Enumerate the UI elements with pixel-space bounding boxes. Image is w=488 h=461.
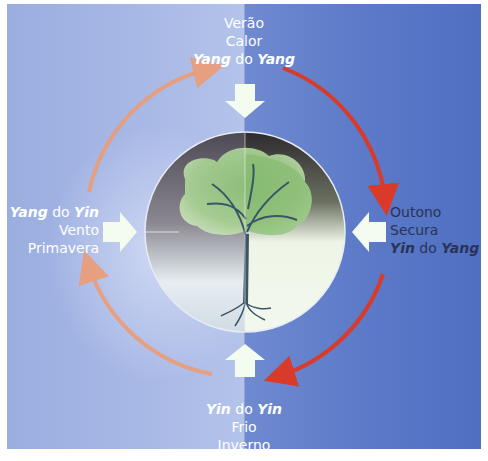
climate-name: Calor: [7, 32, 481, 50]
yin-yang-aspect: Yin do Yin: [7, 400, 481, 418]
season-name: Primavera: [9, 239, 99, 257]
block-arrow-right-icon: [103, 212, 137, 252]
diagram-panel: Verão Calor Yang do Yang Yang do Yin Ven…: [7, 4, 481, 449]
climate-name: Vento: [9, 221, 99, 239]
yin-yang-aspect: Yin do Yang: [390, 239, 481, 257]
season-name: Inverno: [7, 436, 481, 449]
block-arrow-up-icon: [225, 344, 265, 377]
season-name: Outono: [390, 203, 481, 221]
season-name: Verão: [7, 14, 481, 32]
block-arrow-left-icon: [352, 212, 386, 252]
yin-yang-aspect: Yang do Yin: [9, 203, 99, 221]
climate-name: Secura: [390, 221, 481, 239]
label-spring: Yang do Yin Vento Primavera: [9, 203, 99, 257]
label-winter: Yin do Yin Frio Inverno: [7, 400, 481, 449]
label-autumn: Outono Secura Yin do Yang: [390, 203, 481, 257]
block-arrow-down-icon: [225, 84, 265, 118]
tree-illustration: [145, 132, 345, 332]
climate-name: Frio: [7, 418, 481, 436]
yin-yang-aspect: Yang do Yang: [7, 50, 481, 68]
label-summer: Verão Calor Yang do Yang: [7, 14, 481, 68]
